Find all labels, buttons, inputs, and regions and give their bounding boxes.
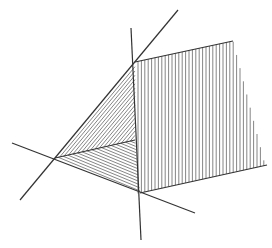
diagram-canvas [0,0,272,248]
diagonal-axis-line [20,10,178,200]
bottom-edge [140,165,267,193]
diagonal-hatch-region [60,67,135,157]
hatched-planes-drawing [0,0,272,248]
horizontal-axis-line [12,143,195,213]
vertical-hatch-region [138,42,264,194]
